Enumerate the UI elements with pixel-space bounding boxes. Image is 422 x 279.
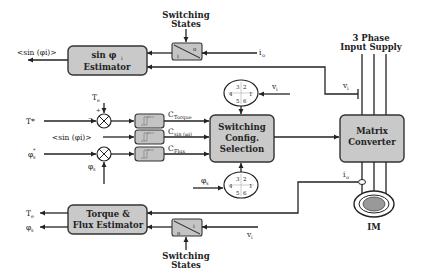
svg-text:Switching: Switching bbox=[218, 122, 265, 132]
svg-text:e: e bbox=[31, 213, 34, 219]
phi-output-signal: φ s bbox=[26, 223, 68, 233]
svg-text:Config.: Config. bbox=[225, 133, 259, 143]
svg-text:Input Supply: Input Supply bbox=[340, 42, 403, 52]
svg-text:1: 1 bbox=[249, 183, 253, 189]
dtc-matrix-converter-diagram: 3 Phase Input Supply Matrix Converter IM… bbox=[0, 0, 422, 279]
supply-label: 3 Phase Input Supply bbox=[340, 33, 403, 52]
svg-text:Estimator: Estimator bbox=[84, 62, 132, 72]
svg-text:Converter: Converter bbox=[348, 137, 396, 147]
sin-output-signal: <sin (φi)> bbox=[17, 48, 68, 60]
svg-text:5: 5 bbox=[236, 98, 240, 104]
svg-text:s: s bbox=[93, 166, 96, 172]
svg-text:e: e bbox=[97, 97, 100, 103]
svg-text:4: 4 bbox=[229, 91, 233, 97]
t-star-signal: T* bbox=[26, 117, 96, 126]
hysteresis-torque: C Torque bbox=[135, 110, 209, 128]
svg-text:−: − bbox=[88, 115, 93, 121]
svg-text:s: s bbox=[31, 227, 34, 233]
svg-text:o: o bbox=[346, 174, 349, 180]
svg-text:T*: T* bbox=[26, 117, 35, 126]
svg-text:i: i bbox=[177, 53, 179, 59]
svg-text:6: 6 bbox=[243, 190, 247, 196]
svg-text:2: 2 bbox=[243, 84, 247, 90]
io-top-signal: i o bbox=[202, 48, 265, 58]
io-sensor bbox=[359, 180, 366, 185]
svg-text:6: 6 bbox=[243, 98, 247, 104]
svg-text:IM: IM bbox=[367, 222, 381, 232]
svg-text:<sin (φi)>: <sin (φi)> bbox=[17, 48, 57, 57]
hysteresis-sin: C sin (φi) bbox=[135, 127, 209, 144]
sin-phi-estimator-block: sin φ i Estimator bbox=[68, 46, 147, 75]
svg-text:States: States bbox=[171, 260, 201, 270]
matrix-converter-block: Matrix Converter bbox=[340, 115, 404, 162]
svg-text:3: 3 bbox=[236, 176, 240, 182]
sector-wheel-vi: 3 2 4 1 5 6 v i bbox=[224, 80, 290, 114]
torque-comparator: + − bbox=[88, 107, 111, 128]
svg-text:1: 1 bbox=[249, 91, 253, 97]
svg-text:Flux: Flux bbox=[174, 148, 185, 154]
sin-input-signal: <sin (φi)> bbox=[52, 133, 134, 142]
sector-wheel-phi: 3 2 4 1 5 6 φ s bbox=[193, 163, 258, 198]
svg-text:4: 4 bbox=[229, 183, 233, 189]
svg-text:o: o bbox=[262, 52, 265, 58]
svg-text:sin (φi): sin (φi) bbox=[174, 131, 192, 138]
torque-flux-estimator-block: Torque & Flux Estimator bbox=[68, 205, 147, 234]
switching-config-block: Switching Config. Selection bbox=[210, 115, 274, 162]
svg-text:Matrix: Matrix bbox=[356, 126, 389, 136]
svg-text:3: 3 bbox=[236, 84, 240, 90]
phi-feedback-signal: φ s bbox=[88, 162, 104, 184]
vi-bottom-signal: v i bbox=[202, 227, 258, 240]
switching-states-bottom: i o Switching States bbox=[147, 219, 210, 270]
svg-text:i: i bbox=[347, 85, 349, 91]
svg-text:2: 2 bbox=[243, 176, 247, 182]
svg-text:s: s bbox=[206, 180, 209, 186]
induction-motor: IM bbox=[354, 191, 394, 232]
svg-text:States: States bbox=[171, 19, 201, 29]
svg-text:i: i bbox=[276, 86, 278, 92]
svg-text:Flux Estimator: Flux Estimator bbox=[73, 220, 144, 230]
svg-text:Torque: Torque bbox=[174, 114, 192, 121]
svg-text:i: i bbox=[251, 234, 253, 240]
te-output-signal: T e bbox=[26, 209, 68, 219]
flux-comparator bbox=[97, 147, 111, 161]
svg-text:5: 5 bbox=[236, 190, 240, 196]
svg-text:<sin (φi)>: <sin (φi)> bbox=[52, 133, 92, 142]
svg-text:Torque &: Torque & bbox=[86, 209, 130, 219]
motor-phase-lines bbox=[362, 162, 386, 195]
svg-text:sin φ: sin φ bbox=[92, 50, 117, 60]
svg-text:*: * bbox=[33, 147, 36, 153]
hysteresis-flux: C Flux bbox=[135, 144, 209, 161]
supply-phase-lines bbox=[362, 54, 386, 115]
phi-star-signal: φ s * bbox=[28, 147, 96, 160]
svg-text:i: i bbox=[193, 223, 195, 229]
svg-text:+: + bbox=[96, 107, 101, 113]
svg-text:Selection: Selection bbox=[220, 144, 264, 154]
svg-text:s: s bbox=[33, 154, 36, 160]
